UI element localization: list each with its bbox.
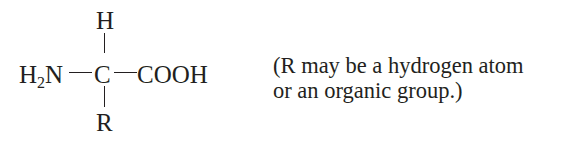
r-group-caption: (R may be a hydrogen atom or an organic … (273, 53, 524, 103)
r-group-atom: R (96, 110, 113, 135)
caption-line-2: or an organic group.) (273, 78, 524, 103)
alpha-carbon-atom: C (94, 62, 111, 87)
top-hydrogen-atom: H (96, 8, 114, 33)
right-bond (114, 72, 137, 73)
carboxyl-group: COOH (137, 62, 208, 87)
bottom-bond (104, 86, 105, 107)
left-bond (69, 72, 92, 73)
caption-line-1: (R may be a hydrogen atom (273, 53, 524, 78)
amino-n: N (45, 61, 63, 88)
amino-group: H2N (19, 62, 63, 87)
top-bond (104, 33, 105, 53)
amino-subscript: 2 (37, 74, 45, 91)
amino-h: H (19, 61, 37, 88)
